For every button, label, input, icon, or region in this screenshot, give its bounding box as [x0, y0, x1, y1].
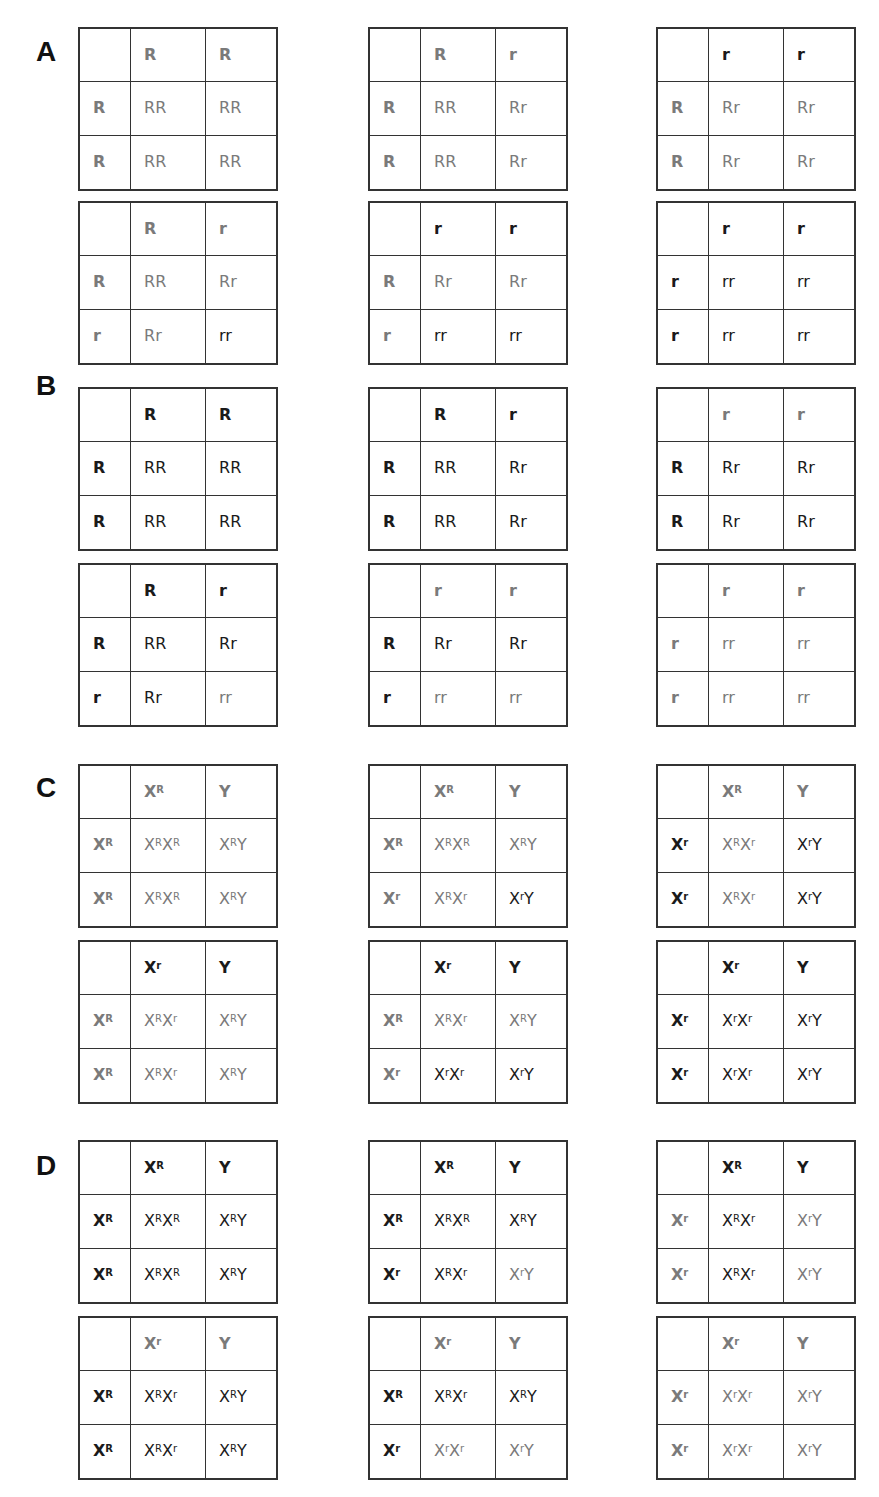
parent-allele-row-header: r	[658, 618, 709, 671]
offspring-cell: XR XR	[421, 819, 496, 872]
offspring-cell: XRY	[496, 995, 566, 1048]
offspring-cell: XrXr	[709, 1049, 784, 1102]
offspring-cell: XRXr	[131, 995, 206, 1048]
offspring-cell: XrXr	[709, 1425, 784, 1478]
offspring-cell: Rr	[709, 496, 784, 549]
offspring-cell: Rr	[784, 82, 854, 135]
parent-allele-row-header: r	[658, 672, 709, 725]
offspring-cell: Rr	[131, 672, 206, 725]
offspring-cell: rr	[421, 310, 496, 363]
parent-allele-row-header: R	[370, 82, 421, 135]
parent-allele-row-header: R	[80, 136, 131, 189]
corner-cell	[80, 29, 131, 82]
parent-allele-header: Y	[496, 942, 566, 995]
punnett-square: rrrrrrrrrrrr	[656, 201, 856, 365]
parent-allele-row-header: Xr	[658, 1249, 709, 1302]
punnett-square: XRYXrXRXrXrYXrXRXrXrY	[656, 1140, 856, 1304]
offspring-cell: XRXr	[131, 1425, 206, 1478]
offspring-cell: rr	[206, 672, 276, 725]
corner-cell	[658, 942, 709, 995]
offspring-cell: RR	[131, 496, 206, 549]
punnett-square: RrRRRRrRRRRr	[368, 387, 568, 551]
parent-allele-header: Y	[206, 1142, 276, 1195]
parent-allele-row-header: Xr	[370, 873, 421, 926]
parent-allele-header: r	[709, 389, 784, 442]
corner-cell	[658, 766, 709, 819]
corner-cell	[658, 203, 709, 256]
parent-allele-header: Xr	[709, 942, 784, 995]
offspring-cell: XrY	[496, 873, 566, 926]
offspring-cell: Rr	[496, 618, 566, 671]
corner-cell	[658, 389, 709, 442]
offspring-cell: XRXR	[131, 819, 206, 872]
parent-allele-header: R	[131, 203, 206, 256]
corner-cell	[80, 942, 131, 995]
parent-allele-row-header: XR	[370, 819, 421, 872]
parent-allele-header: Xr	[421, 1318, 496, 1371]
offspring-cell: Rr	[206, 256, 276, 309]
offspring-cell: Rr	[709, 442, 784, 495]
parent-allele-header: XR	[709, 1142, 784, 1195]
offspring-cell: RR	[206, 496, 276, 549]
corner-cell	[370, 203, 421, 256]
offspring-cell: XrXr	[421, 1425, 496, 1478]
parent-allele-header: r	[496, 29, 566, 82]
corner-cell	[80, 389, 131, 442]
offspring-cell: rr	[784, 256, 854, 309]
corner-cell	[370, 942, 421, 995]
parent-allele-row-header: R	[658, 496, 709, 549]
parent-allele-row-header: R	[80, 618, 131, 671]
parent-allele-row-header: Xr	[658, 1371, 709, 1424]
parent-allele-header: Y	[784, 766, 854, 819]
corner-cell	[370, 1318, 421, 1371]
section-label-b: B	[36, 372, 56, 400]
offspring-cell: XRY	[206, 1195, 276, 1248]
parent-allele-header: Y	[784, 1142, 854, 1195]
offspring-cell: XRY	[206, 819, 276, 872]
parent-allele-header: Xr	[421, 942, 496, 995]
parent-allele-row-header: XR	[80, 1249, 131, 1302]
parent-allele-header: XR	[131, 766, 206, 819]
parent-allele-header: r	[784, 29, 854, 82]
parent-allele-row-header: XR	[80, 873, 131, 926]
corner-cell	[658, 29, 709, 82]
corner-cell	[80, 766, 131, 819]
parent-allele-header: Y	[496, 1142, 566, 1195]
offspring-cell: rr	[496, 672, 566, 725]
punnett-square: RrRRRRrrRrrr	[78, 563, 278, 727]
offspring-cell: XrY	[784, 1371, 854, 1424]
parent-allele-header: Xr	[131, 942, 206, 995]
parent-allele-header: R	[421, 29, 496, 82]
corner-cell	[370, 29, 421, 82]
parent-allele-header: r	[709, 29, 784, 82]
parent-allele-header: r	[784, 389, 854, 442]
parent-allele-row-header: Xr	[658, 819, 709, 872]
parent-allele-header: R	[206, 389, 276, 442]
corner-cell	[370, 565, 421, 618]
offspring-cell: XRXr	[709, 1195, 784, 1248]
punnett-square: XrYXRXRXrXRYXrXrXrXrY	[368, 1316, 568, 1480]
parent-allele-row-header: XR	[370, 995, 421, 1048]
offspring-cell: Rr	[421, 256, 496, 309]
offspring-cell: XrY	[784, 819, 854, 872]
parent-allele-header: r	[496, 389, 566, 442]
offspring-cell: RR	[421, 82, 496, 135]
corner-cell	[370, 389, 421, 442]
offspring-cell: XRY	[206, 995, 276, 1048]
parent-allele-row-header: R	[370, 256, 421, 309]
parent-allele-row-header: XR	[80, 1049, 131, 1102]
parent-allele-row-header: Xr	[658, 873, 709, 926]
parent-allele-row-header: R	[370, 442, 421, 495]
offspring-cell: XRXr	[421, 995, 496, 1048]
offspring-cell: XrY	[784, 1425, 854, 1478]
offspring-cell: XrY	[784, 1249, 854, 1302]
offspring-cell: Rr	[421, 618, 496, 671]
offspring-cell: Rr	[131, 310, 206, 363]
punnett-square: RrRRRRrRRRRr	[368, 27, 568, 191]
offspring-cell: rr	[784, 672, 854, 725]
offspring-cell: rr	[421, 672, 496, 725]
offspring-cell: XRY	[206, 873, 276, 926]
parent-allele-row-header: R	[80, 496, 131, 549]
parent-allele-header: r	[709, 565, 784, 618]
offspring-cell: Rr	[496, 442, 566, 495]
